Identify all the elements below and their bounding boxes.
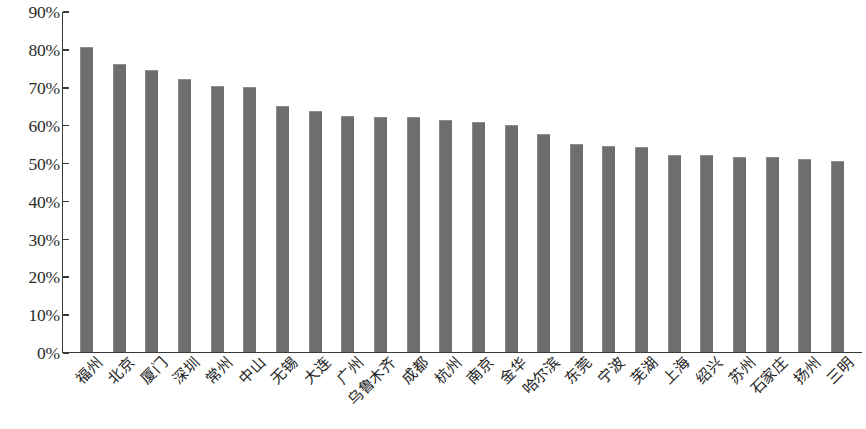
bar bbox=[178, 79, 191, 352]
bar-fill bbox=[276, 106, 289, 352]
bar-chart: 0%10%20%30%40%50%60%70%80%90% 福州北京厦门深圳常州… bbox=[0, 0, 866, 429]
bar-fill bbox=[505, 125, 518, 352]
bar-fill bbox=[80, 47, 93, 352]
bar bbox=[602, 146, 615, 352]
bar bbox=[505, 125, 518, 352]
y-axis-tick-label: 0% bbox=[37, 345, 63, 363]
bar-fill bbox=[602, 146, 615, 352]
x-axis-tick-label: 成都 bbox=[400, 355, 432, 387]
bar-fill bbox=[537, 134, 550, 352]
bar-fill bbox=[472, 122, 485, 352]
bar-fill bbox=[178, 79, 191, 352]
bar bbox=[113, 64, 126, 352]
bar bbox=[537, 134, 550, 352]
y-axis-tick-label: 90% bbox=[29, 4, 63, 22]
x-axis-tick-label: 无锡 bbox=[269, 355, 301, 387]
bar-fill bbox=[733, 157, 746, 353]
bar-fill bbox=[668, 155, 681, 352]
x-axis-tick-label: 扬州 bbox=[792, 355, 824, 387]
bar-fill bbox=[407, 117, 420, 352]
bar bbox=[80, 47, 93, 352]
bar-fill bbox=[439, 120, 452, 352]
y-axis-tick-label: 50% bbox=[29, 155, 63, 173]
bar bbox=[407, 117, 420, 352]
y-axis-tick-label: 70% bbox=[29, 80, 63, 98]
bar bbox=[243, 87, 256, 352]
bar-fill bbox=[145, 70, 158, 352]
x-axis-tick-label: 厦门 bbox=[139, 355, 171, 387]
bar-fill bbox=[635, 147, 648, 352]
y-axis-tick-label: 60% bbox=[29, 117, 63, 135]
x-axis-tick-label: 上海 bbox=[661, 355, 693, 387]
plot-area: 0%10%20%30%40%50%60%70%80%90% bbox=[62, 12, 862, 353]
y-axis-tick-label: 80% bbox=[29, 42, 63, 60]
bar bbox=[831, 161, 844, 352]
bar bbox=[341, 116, 354, 352]
y-axis-tick-label: 40% bbox=[29, 193, 63, 211]
y-axis-tick-label: 10% bbox=[29, 307, 63, 325]
bar-fill bbox=[309, 111, 322, 352]
x-axis-tick-label: 东莞 bbox=[563, 355, 595, 387]
bar bbox=[700, 155, 713, 352]
y-axis-tick-label: 20% bbox=[29, 269, 63, 287]
bar bbox=[439, 120, 452, 352]
bar bbox=[570, 144, 583, 352]
bar-series bbox=[63, 12, 862, 352]
x-axis-tick-label: 深圳 bbox=[171, 355, 203, 387]
bar bbox=[798, 159, 811, 352]
y-axis-tick-label: 30% bbox=[29, 231, 63, 249]
bar-fill bbox=[211, 86, 224, 352]
x-axis-tick-label: 杭州 bbox=[432, 355, 464, 387]
x-axis-labels: 福州北京厦门深圳常州中山无锡大连广州乌鲁木齐成都杭州南京金华哈尔滨东莞宁波芜湖上… bbox=[62, 355, 862, 429]
bar bbox=[374, 117, 387, 352]
x-axis-tick-label: 南京 bbox=[465, 355, 497, 387]
bar bbox=[635, 147, 648, 352]
bar-fill bbox=[374, 117, 387, 352]
bar bbox=[733, 157, 746, 353]
bar bbox=[668, 155, 681, 352]
x-axis-tick-label: 福州 bbox=[73, 355, 105, 387]
x-axis-tick-label: 绍兴 bbox=[694, 355, 726, 387]
x-axis-tick-label: 北京 bbox=[106, 355, 138, 387]
bar bbox=[766, 157, 779, 352]
x-axis-tick-label: 宁波 bbox=[596, 355, 628, 387]
bar bbox=[276, 106, 289, 352]
x-axis-tick-label: 芜湖 bbox=[628, 355, 660, 387]
bar bbox=[211, 86, 224, 352]
bar-fill bbox=[766, 157, 779, 352]
bar-fill bbox=[113, 64, 126, 352]
x-axis-tick-label: 大连 bbox=[302, 355, 334, 387]
x-axis-tick-label: 常州 bbox=[204, 355, 236, 387]
bar-fill bbox=[831, 161, 844, 352]
bar bbox=[472, 122, 485, 352]
y-axis-tick-mark bbox=[63, 352, 69, 354]
x-axis-tick-label: 中山 bbox=[237, 355, 269, 387]
bar bbox=[145, 70, 158, 352]
x-axis-tick-label: 三明 bbox=[824, 355, 856, 387]
bar-fill bbox=[341, 116, 354, 352]
bar bbox=[309, 111, 322, 352]
bar-fill bbox=[700, 155, 713, 352]
bar-fill bbox=[798, 159, 811, 352]
bar-fill bbox=[243, 87, 256, 352]
bar-fill bbox=[570, 144, 583, 352]
